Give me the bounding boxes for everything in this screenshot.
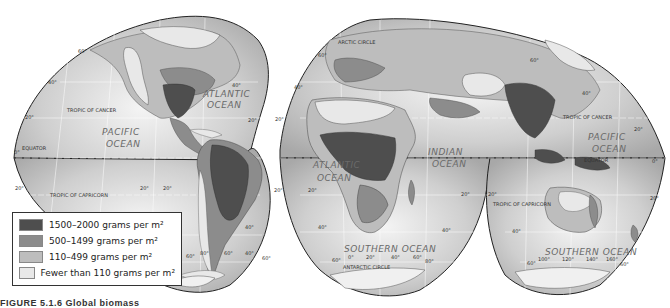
deg-label: 60° (262, 255, 271, 261)
legend-item: 1500–2000 grams per m² (19, 217, 175, 233)
deg-label: 20° (634, 126, 643, 132)
legend-item: 110–499 grams per m² (19, 249, 175, 265)
legend-label: 500–1499 grams per m² (49, 236, 158, 246)
label-atlantic-north-1: ATLANTIC (202, 89, 251, 99)
legend-item: Fewer than 110 grams per m² (19, 265, 175, 281)
label-atlantic-south-1: ATLANTIC (312, 160, 361, 170)
deg-label: 60° (318, 52, 327, 58)
legend-item: 500–1499 grams per m² (19, 233, 175, 249)
deg-label: 20° (275, 116, 284, 122)
deg-label: 40° (294, 84, 303, 90)
deg-label: 20° (15, 185, 24, 191)
deg-label: 60° (527, 260, 536, 266)
deg-label: 20° (248, 117, 257, 123)
deg-label: 160° (606, 256, 619, 262)
deg-label: 40° (318, 224, 327, 230)
deg-label: 60° (620, 261, 629, 267)
deg-label: 20° (25, 114, 34, 120)
deg-label: 100° (538, 256, 551, 262)
deg-label: 60° (332, 257, 341, 263)
label-southern-ocean-1: SOUTHERN OCEAN (344, 244, 436, 254)
label-tropic-capricorn-west: TROPIC OF CAPRICORN (49, 192, 108, 198)
legend: 1500–2000 grams per m² 500–1499 grams pe… (12, 212, 182, 286)
label-pacific-west-2: OCEAN (106, 139, 140, 149)
deg-label: 20° (366, 254, 375, 260)
legend-label: 110–499 grams per m² (49, 252, 152, 262)
deg-label: 60° (413, 254, 422, 260)
legend-swatch-high (19, 219, 43, 231)
deg-label: 40° (245, 250, 254, 256)
label-pacific-west-1: PACIFIC (102, 127, 140, 137)
deg-label: 40° (232, 82, 241, 88)
deg-label: 40° (391, 254, 400, 260)
label-indian-1: INDIAN (428, 147, 463, 157)
deg-label: 60° (186, 253, 195, 259)
legend-label: 1500–2000 grams per m² (49, 220, 164, 230)
legend-swatch-low (19, 251, 43, 263)
deg-label: 20° (461, 191, 470, 197)
deg-label: 140° (586, 256, 599, 262)
deg-label: 0° (348, 254, 354, 260)
label-pacific-east-1: PACIFIC (588, 132, 626, 142)
deg-label: 40° (442, 227, 451, 233)
label-tropic-cancer-east: TROPIC OF CANCER (562, 114, 613, 120)
label-antarctic-circle: ANTARCTIC CIRCLE (343, 264, 390, 270)
deg-label: 20° (488, 191, 497, 197)
deg-label: 80° (200, 250, 209, 256)
legend-swatch-mid (19, 235, 43, 247)
label-arctic-circle: ARCTIC CIRCLE (338, 39, 375, 45)
deg-label: 120° (562, 256, 575, 262)
deg-label: 60° (224, 250, 233, 256)
deg-label: 60° (78, 48, 87, 54)
deg-label: 0° (14, 149, 20, 155)
legend-label: Fewer than 110 grams per m² (41, 268, 175, 278)
deg-label: 40° (582, 90, 591, 96)
label-pacific-east-2: OCEAN (592, 144, 626, 154)
label-atlantic-north-2: OCEAN (207, 100, 241, 110)
deg-label: 80° (425, 258, 434, 264)
deg-label: 40° (512, 228, 521, 234)
label-equator-west: EQUATOR (22, 145, 47, 151)
figure-caption: FIGURE 5.1.6 Global biomass (0, 298, 140, 308)
deg-label: 20° (308, 187, 317, 193)
deg-label: 60° (530, 57, 539, 63)
deg-label: 0° (652, 158, 658, 164)
label-equator-east: EQUATOR (584, 157, 609, 163)
deg-label: 20° (163, 185, 172, 191)
deg-label: 40° (245, 224, 254, 230)
label-atlantic-south-2: OCEAN (317, 173, 351, 183)
deg-label: 20° (274, 187, 283, 193)
deg-label: 20° (140, 185, 149, 191)
label-indian-2: OCEAN (432, 159, 466, 169)
legend-swatch-lowest (19, 267, 35, 279)
label-tropic-capricorn-east: TROPIC OF CAPRICORN (492, 201, 551, 207)
label-tropic-cancer-west: TROPIC OF CANCER (66, 107, 117, 113)
deg-label: 40° (48, 79, 57, 85)
deg-label: 20° (650, 195, 659, 201)
